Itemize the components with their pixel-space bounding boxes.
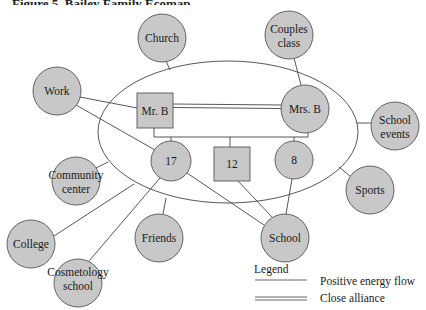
system-label: Work: [44, 85, 70, 97]
connection-lines: [54, 58, 371, 261]
system-label: College: [13, 238, 49, 251]
legend-item-label: Positive energy flow: [320, 275, 416, 288]
system-label-line1: Couples: [270, 23, 308, 36]
line-8-school: [286, 179, 292, 214]
member-child-12: 12: [214, 147, 250, 181]
system-cosmetology-school: Cosmetology school: [47, 259, 109, 307]
close-alliance-line-1: [173, 104, 282, 105]
close-alliance-line-2: [173, 108, 281, 109]
member-label: Mrs. B: [289, 103, 321, 115]
system-couples-class: Couples class: [265, 11, 313, 59]
external-systems: Church Couples class Work School events …: [7, 11, 419, 307]
system-church: Church: [138, 14, 186, 62]
system-school-events: School events: [371, 102, 419, 150]
line-sports-household: [339, 167, 350, 176]
system-label-line2: school: [63, 280, 93, 292]
line-12-school: [238, 181, 272, 217]
member-mr-b: Mr. B: [137, 93, 173, 128]
line-work-mrb: [80, 97, 137, 108]
line-community-household: [96, 162, 108, 168]
system-community-center: Community center: [49, 157, 104, 205]
member-child-8: 8: [275, 141, 313, 179]
system-label-line1: Community: [49, 169, 104, 182]
system-label: School: [269, 232, 301, 244]
system-label-line1: Cosmetology: [47, 266, 109, 279]
system-label: Friends: [142, 232, 177, 244]
system-friends: Friends: [135, 214, 183, 262]
member-label: 17: [165, 155, 177, 167]
system-label: Church: [145, 32, 179, 44]
legend: Legend Positive energy flow Close allian…: [254, 263, 416, 304]
system-college: College: [7, 220, 55, 268]
line-parent-children: [154, 128, 308, 137]
line-friends-household: [163, 198, 166, 214]
system-label-line2: events: [380, 128, 410, 140]
member-label: Mr. B: [142, 105, 169, 117]
member-child-17: 17: [151, 141, 191, 181]
system-school: School: [261, 214, 309, 262]
system-label-line2: class: [278, 37, 301, 49]
member-label: 12: [226, 158, 238, 170]
member-label: 8: [291, 154, 297, 166]
member-mrs-b: Mrs. B: [281, 85, 329, 133]
legend-title: Legend: [254, 263, 289, 276]
household-members: Mr. B Mrs. B 17 12 8: [137, 85, 329, 181]
ecomap-diagram: Mr. B Mrs. B 17 12 8 Church Couples clas…: [0, 0, 426, 310]
system-label-line2: center: [62, 183, 90, 195]
legend-item-label: Close alliance: [320, 292, 385, 304]
system-work: Work: [33, 67, 81, 115]
household-boundary-ellipse: [98, 61, 358, 203]
system-label: Sports: [355, 184, 385, 197]
system-label-line1: School: [379, 114, 411, 126]
system-sports: Sports: [346, 166, 394, 214]
